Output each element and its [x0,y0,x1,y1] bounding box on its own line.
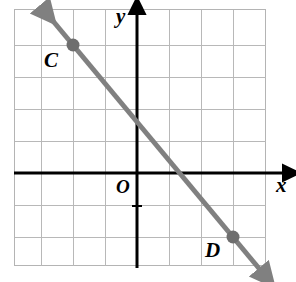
x-axis-label: x [276,175,287,196]
point-label-d: D [205,240,220,261]
y-axis-label: y [116,6,125,27]
origin-label: O [116,177,130,196]
point-c-marker [67,39,80,52]
point-d-marker [227,231,240,244]
point-label-c: C [44,50,58,71]
coordinate-plane-figure: y x O C D [0,0,296,282]
graph-canvas [0,0,296,282]
